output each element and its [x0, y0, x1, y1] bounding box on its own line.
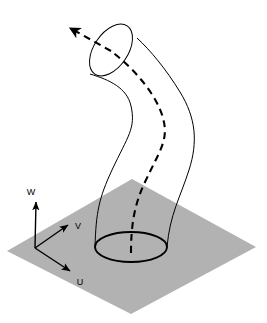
- w-axis-label: W: [27, 187, 36, 197]
- u-axis-label: U: [77, 277, 84, 287]
- w-axis: [35, 202, 36, 248]
- figure-diagram: W V U: [0, 0, 267, 323]
- v-axis-label: V: [75, 221, 81, 231]
- figure-root: W V U: [0, 0, 267, 323]
